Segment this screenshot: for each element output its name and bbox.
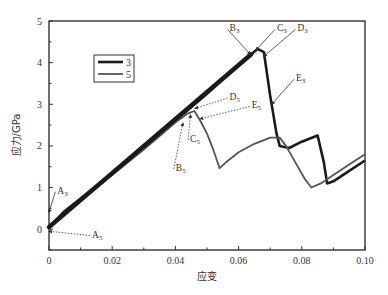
annotation-label: D3 xyxy=(297,23,308,35)
series-line-5 xyxy=(49,111,365,229)
annotation-arrow xyxy=(272,79,294,104)
y-tick-label: 3 xyxy=(37,99,42,110)
legend-label-5: 5 xyxy=(126,69,131,80)
y-axis-label: 应力/GPa xyxy=(10,114,22,157)
annotation-label: C3 xyxy=(277,23,287,35)
legend-label-3: 3 xyxy=(126,57,131,68)
x-tick-label: 0.08 xyxy=(293,255,311,266)
annotation-arrow xyxy=(200,106,250,118)
x-tick-label: 0.02 xyxy=(103,255,121,266)
annotation-subscript: 5 xyxy=(236,96,240,104)
x-tick-label: 0.06 xyxy=(230,255,248,266)
x-tick-label: 0.10 xyxy=(356,255,374,266)
annotation-arrow xyxy=(264,29,296,56)
y-tick-label: 0 xyxy=(37,224,42,235)
annotation-subscript: 5 xyxy=(99,234,103,242)
x-tick-label: 0.04 xyxy=(167,255,185,266)
x-tick-label: 0 xyxy=(47,255,52,266)
annotation-arrow xyxy=(256,29,275,50)
stress-strain-chart: 00.020.040.060.080.10012345 A3A5B3C3D3E3… xyxy=(0,0,388,295)
annotation-label: B5 xyxy=(176,163,186,175)
annotation-label: E3 xyxy=(296,73,306,85)
annotation-subscript: 5 xyxy=(257,104,261,112)
annotation-label: E5 xyxy=(252,100,262,112)
annotation-arrow xyxy=(49,231,90,235)
annotation-subscript: 3 xyxy=(283,27,287,35)
annotation-subscript: 5 xyxy=(182,167,186,175)
annotation-subscript: 3 xyxy=(304,27,308,35)
annotation-subscript: 3 xyxy=(236,27,240,35)
annotation-subscript: 5 xyxy=(196,138,200,146)
loading-band xyxy=(49,54,251,227)
y-tick-label: 5 xyxy=(37,16,42,27)
y-tick-label: 2 xyxy=(37,140,42,151)
annotation-label: A5 xyxy=(92,230,103,242)
annotations: A3A5B3C3D3E3B5C5D5E5 xyxy=(49,23,308,241)
y-tick-label: 4 xyxy=(37,57,42,68)
annotation-subscript: 3 xyxy=(64,190,68,198)
axis-ticks: 00.020.040.060.080.10012345 xyxy=(37,16,374,267)
annotation-arrow xyxy=(49,192,55,213)
x-axis-label: 应变 xyxy=(197,270,217,282)
y-tick-label: 1 xyxy=(37,182,42,193)
annotation-label: A3 xyxy=(57,186,68,198)
annotation-subscript: 3 xyxy=(302,77,306,85)
legend: 35 xyxy=(94,55,134,82)
annotation-label: D5 xyxy=(230,92,241,104)
annotation-label: C5 xyxy=(190,134,200,146)
